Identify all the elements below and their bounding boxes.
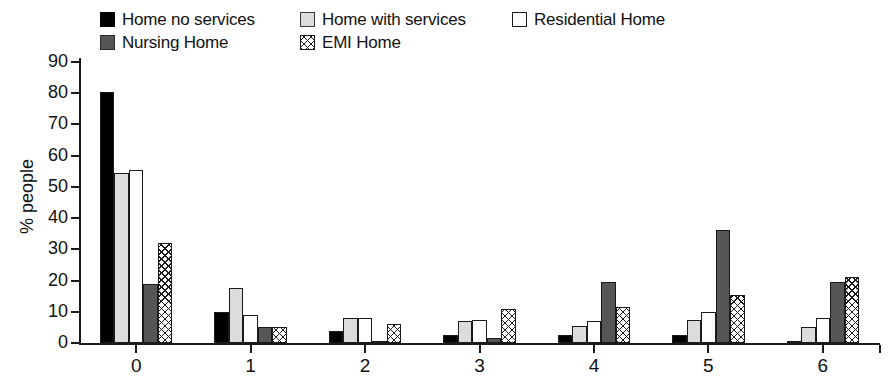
x-axis-tick — [707, 345, 709, 353]
y-axis-title: % people — [17, 142, 38, 252]
x-axis-tick-label: 5 — [688, 356, 728, 375]
y-axis-tick — [71, 123, 79, 125]
bar — [845, 277, 860, 343]
bar — [801, 327, 816, 343]
y-axis-tick-label: 0 — [12, 333, 68, 351]
bar — [558, 335, 573, 343]
bar-chart: Home no services Home with services Resi… — [0, 0, 893, 387]
bar — [472, 320, 487, 343]
x-axis-tick — [593, 345, 595, 353]
y-axis-tick-label: 80 — [12, 83, 68, 101]
x-axis-tick — [135, 345, 137, 353]
x-axis-tick — [250, 345, 252, 353]
bar — [443, 335, 458, 343]
bar — [501, 309, 516, 343]
y-axis-tick-label: 10 — [12, 302, 68, 320]
plot-area: 0102030405060708090 % people 0123456 — [0, 0, 893, 387]
bars-layer — [79, 58, 880, 343]
x-axis-tick-label: 6 — [803, 356, 843, 375]
y-axis-tick — [71, 248, 79, 250]
y-axis-tick — [71, 280, 79, 282]
y-axis-tick — [71, 61, 79, 63]
y-axis-tick — [71, 92, 79, 94]
y-axis-tick-label: 90 — [12, 52, 68, 70]
bar — [816, 318, 831, 343]
bar — [687, 320, 702, 343]
bar — [616, 307, 631, 343]
bar — [787, 341, 802, 343]
bar — [572, 326, 587, 343]
bar — [329, 331, 344, 343]
bar — [272, 327, 287, 343]
bar — [372, 341, 387, 343]
y-axis-tick — [71, 311, 79, 313]
y-axis-tick-label: 70 — [12, 114, 68, 132]
x-axis-tick — [822, 345, 824, 353]
bar — [158, 243, 173, 343]
bar — [229, 288, 244, 343]
bar — [830, 282, 845, 343]
bar — [358, 318, 373, 343]
bar — [387, 324, 402, 343]
bar — [343, 318, 358, 343]
bar — [701, 312, 716, 343]
bar — [214, 312, 229, 343]
bar — [129, 170, 144, 343]
bar — [100, 92, 115, 343]
x-axis-tick-label: 2 — [345, 356, 385, 375]
bar — [114, 173, 129, 343]
x-axis-end-tick — [879, 345, 881, 353]
x-axis-tick-label: 1 — [231, 356, 271, 375]
x-axis-tick — [364, 345, 366, 353]
x-axis-tick-label: 3 — [460, 356, 500, 375]
x-axis-tick-label: 0 — [116, 356, 156, 375]
x-axis-tick-label: 4 — [574, 356, 614, 375]
bar — [716, 230, 731, 343]
y-axis-tick — [71, 155, 79, 157]
y-axis-tick — [71, 342, 79, 344]
bar — [730, 295, 745, 343]
bar — [587, 321, 602, 343]
bar — [672, 335, 687, 343]
bar — [458, 321, 473, 343]
bar — [487, 338, 502, 343]
y-axis-tick — [71, 186, 79, 188]
bar — [601, 282, 616, 343]
bar — [258, 327, 273, 343]
bar — [143, 284, 158, 343]
y-axis-tick — [71, 217, 79, 219]
bar — [243, 315, 258, 343]
y-axis-tick-label: 20 — [12, 271, 68, 289]
x-axis-tick — [479, 345, 481, 353]
